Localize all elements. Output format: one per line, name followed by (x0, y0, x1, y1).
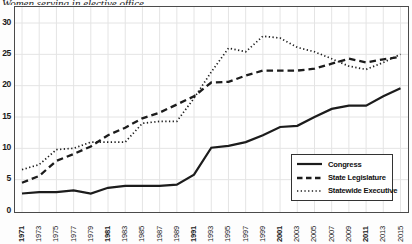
x-tick-label-2005: 2005 (309, 226, 318, 242)
x-tick-label-2015: 2015 (396, 226, 405, 242)
y-tick-label-30: 30 (0, 18, 11, 27)
x-tick-label-1983: 1983 (120, 226, 129, 242)
x-tick-label-1971: 1971 (17, 226, 26, 242)
x-tick-label-1973: 1973 (34, 226, 43, 242)
dotted-line-sample-icon (296, 188, 323, 194)
x-tick-label-2001: 2001 (275, 226, 284, 242)
x-tick-label-1975: 1975 (51, 226, 60, 242)
x-tick-label-1995: 1995 (223, 226, 232, 242)
legend-label-state-legislature: State Legislature (328, 173, 386, 182)
y-tick-label-15: 15 (0, 112, 11, 121)
x-tick-label-1985: 1985 (137, 226, 146, 242)
x-tick-label-1999: 1999 (258, 226, 267, 242)
legend-label-statewide-executive: Statewide Executive (328, 186, 397, 195)
x-tick-label-2003: 2003 (292, 226, 301, 242)
x-tick-label-1977: 1977 (69, 226, 78, 242)
x-tick-label-1987: 1987 (155, 226, 164, 242)
solid-line-sample-icon (296, 161, 323, 167)
legend-label-congress: Congress (328, 160, 361, 169)
x-tick-label-1989: 1989 (172, 226, 181, 242)
women-in-office-line-chart: Women serving in elective office 0510152… (0, 0, 412, 244)
x-tick-label-1991: 1991 (189, 226, 198, 242)
y-tick-label-20: 20 (0, 80, 11, 89)
x-tick-label-1979: 1979 (86, 226, 95, 242)
cropped-caption: Women serving in elective office (2, 0, 152, 5)
legend-item-state-legislature: State Legislature (296, 172, 388, 184)
x-tick-label-2013: 2013 (378, 226, 387, 242)
x-tick-label-1981: 1981 (103, 226, 112, 242)
x-tick-label-1993: 1993 (206, 226, 215, 242)
y-tick-label-10: 10 (0, 143, 11, 152)
y-tick-label-25: 25 (0, 49, 11, 58)
legend-item-statewide-executive: Statewide Executive (296, 185, 388, 197)
legend-item-congress: Congress (296, 158, 388, 170)
x-tick-label-2011: 2011 (361, 226, 370, 242)
cropped-caption-text: Women serving in elective office (2, 0, 144, 5)
legend-box: Congress State Legislature Statewide Exe… (291, 154, 393, 201)
x-tick-label-2009: 2009 (344, 226, 353, 242)
y-tick-label-5: 5 (0, 174, 11, 183)
x-tick-label-2007: 2007 (327, 226, 336, 242)
x-tick-label-1997: 1997 (241, 226, 250, 242)
dashed-line-sample-icon (296, 175, 323, 181)
y-tick-label-0: 0 (0, 206, 11, 215)
